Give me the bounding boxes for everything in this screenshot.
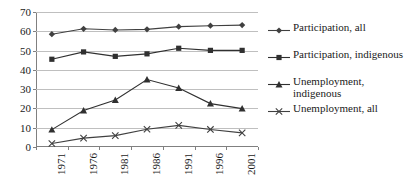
x-tick-label: 1976 <box>88 153 99 175</box>
series-group <box>49 122 246 147</box>
chart-legend: Participation, allParticipation, indigen… <box>268 22 415 130</box>
triangle-marker-icon <box>268 77 290 90</box>
y-tick-label: 70 <box>20 7 36 18</box>
x-tick-mark <box>36 147 37 150</box>
x-marker-icon <box>268 104 290 117</box>
plot-frame: 010203040506070 197119761981198619911996… <box>36 12 258 147</box>
x-tick-label: 1991 <box>183 153 194 175</box>
x-tick-mark <box>99 147 100 150</box>
data-point-marker <box>49 31 55 37</box>
x-tick-mark <box>195 147 196 150</box>
series-group <box>49 22 245 37</box>
legend-item[interactable]: Unemployment, indigenous <box>268 76 415 99</box>
x-tick-mark <box>258 147 259 150</box>
data-point-marker <box>80 26 86 32</box>
x-tick-mark <box>163 147 164 150</box>
data-point-marker <box>144 76 151 82</box>
legend-label: Participation, all <box>293 22 366 34</box>
x-tick-label: 2001 <box>246 153 257 175</box>
legend-item[interactable]: Unemployment, all <box>268 103 415 117</box>
data-point-marker <box>207 23 213 29</box>
data-point-marker <box>208 48 213 53</box>
data-point-marker <box>144 26 150 32</box>
data-point-marker <box>112 27 118 33</box>
y-tick-label: 50 <box>20 45 36 56</box>
data-point-marker <box>176 24 182 30</box>
data-point-marker <box>144 51 149 56</box>
series-plot <box>36 12 258 147</box>
y-tick-label: 10 <box>20 122 36 133</box>
plot-area: 010203040506070 197119761981198619911996… <box>36 12 258 147</box>
x-tick-label: 1981 <box>119 153 130 175</box>
data-point-marker <box>48 126 55 132</box>
series-line <box>52 80 242 130</box>
data-point-marker <box>239 22 245 28</box>
y-tick-label: 20 <box>20 103 36 114</box>
legend-item[interactable]: Participation, all <box>268 22 415 36</box>
data-point-marker <box>240 48 245 53</box>
x-tick-mark <box>226 147 227 150</box>
x-tick-label: 1971 <box>56 153 67 175</box>
diamond-marker-icon <box>268 23 290 36</box>
legend-label: Participation, indigenous <box>293 49 403 61</box>
data-point-marker <box>176 46 181 51</box>
series-group <box>48 76 245 133</box>
data-point-marker <box>113 54 118 59</box>
x-tick-label: 1996 <box>214 153 225 175</box>
line-chart: 010203040506070 197119761981198619911996… <box>0 0 415 186</box>
legend-label: Unemployment, indigenous <box>293 76 364 99</box>
x-tick-label: 1986 <box>151 153 162 175</box>
y-tick-label: 0 <box>26 142 37 153</box>
y-tick-label: 60 <box>20 26 36 37</box>
series-group <box>49 46 244 62</box>
x-tick-mark <box>68 147 69 150</box>
legend-label: Unemployment, all <box>293 103 378 115</box>
data-point-marker <box>81 49 86 54</box>
x-tick-mark <box>131 147 132 150</box>
square-marker-icon <box>268 50 290 63</box>
y-tick-label: 30 <box>20 84 36 95</box>
data-point-marker <box>112 96 119 102</box>
legend-item[interactable]: Participation, indigenous <box>268 49 415 63</box>
y-tick-label: 40 <box>20 64 36 75</box>
data-point-marker <box>49 57 54 62</box>
data-point-marker <box>207 100 214 106</box>
